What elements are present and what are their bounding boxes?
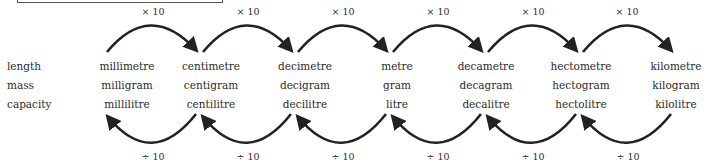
multiply-label: × 10 xyxy=(521,6,544,17)
unit-centigram: centigram xyxy=(184,79,238,91)
unit-hectolitre: hectolitre xyxy=(555,98,607,110)
unit-decigram: decigram xyxy=(280,79,330,91)
unit-hectometre: hectometre xyxy=(550,60,611,72)
divide-label: ÷ 10 xyxy=(426,151,449,162)
unit-litre: litre xyxy=(386,98,408,110)
divide-label: ÷ 10 xyxy=(521,151,544,162)
unit-kilometre: kilometre xyxy=(650,60,701,72)
unit-kilolitre: kilolitre xyxy=(655,98,697,110)
row-label-capacity: capacity xyxy=(7,98,52,110)
unit-decametre: decametre xyxy=(458,60,515,72)
unit-kilogram: kilogram xyxy=(652,79,699,91)
divide-label: ÷ 10 xyxy=(331,151,354,162)
unit-millilitre: millilitre xyxy=(104,98,150,110)
multiply-label: × 10 xyxy=(615,6,638,17)
unit-decalitre: decalitre xyxy=(462,98,509,110)
row-label-length: length xyxy=(7,60,41,72)
row-label-mass: mass xyxy=(7,79,34,91)
unit-millimetre: millimetre xyxy=(99,60,154,72)
multiply-arrows xyxy=(107,25,671,52)
unit-centimetre: centimetre xyxy=(182,60,240,72)
multiply-label: × 10 xyxy=(426,6,449,17)
unit-decilitre: decilitre xyxy=(283,98,327,110)
multiply-label: × 10 xyxy=(331,6,354,17)
divide-label: ÷ 10 xyxy=(141,151,164,162)
unit-hectogram: hectogram xyxy=(552,79,609,91)
multiply-label: × 10 xyxy=(236,6,259,17)
unit-decagram: decagram xyxy=(459,79,512,91)
unit-centilitre: centilitre xyxy=(187,98,236,110)
divide-label: ÷ 10 xyxy=(236,151,259,162)
unit-gram: gram xyxy=(383,79,411,91)
divide-label: ÷ 10 xyxy=(616,151,639,162)
unit-metre: metre xyxy=(381,60,413,72)
unit-milligram: milligram xyxy=(101,79,152,91)
unit-decimetre: decimetre xyxy=(278,60,332,72)
divide-arrows xyxy=(108,114,671,143)
multiply-label: × 10 xyxy=(141,6,164,17)
